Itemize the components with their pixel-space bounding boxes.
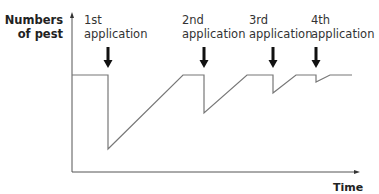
application-arrow-1-icon (104, 47, 113, 68)
population-line (72, 75, 352, 149)
pest-population-diagram (0, 0, 379, 194)
application-arrow-2-icon (200, 47, 209, 68)
x-axis-arrow-icon (354, 170, 360, 174)
x-axis-label: Time (333, 181, 363, 194)
application-arrow-4-icon (312, 47, 321, 68)
application-arrow-3-icon (269, 47, 278, 68)
y-axis-arrow-icon (70, 12, 74, 18)
